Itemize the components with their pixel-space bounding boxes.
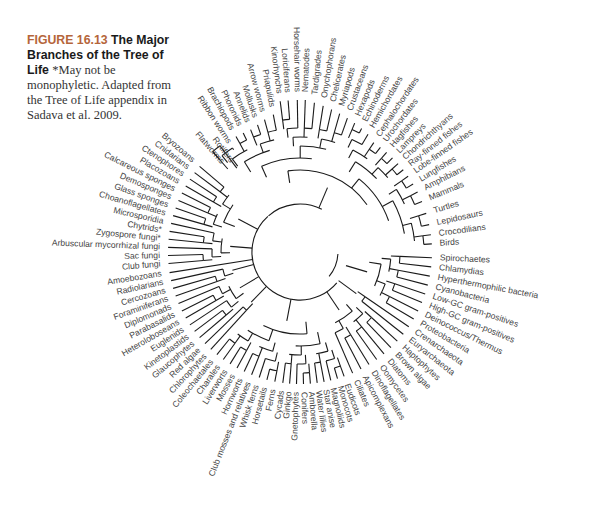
branch-arc bbox=[367, 318, 372, 323]
branch-line bbox=[230, 347, 241, 364]
branch-line bbox=[254, 137, 257, 145]
branch-line bbox=[235, 336, 240, 343]
branch-arc bbox=[253, 354, 259, 357]
branch-arc bbox=[213, 233, 214, 241]
branch-line bbox=[377, 281, 385, 284]
branch-line bbox=[243, 133, 246, 140]
branch-arc bbox=[396, 189, 404, 204]
branch-arc bbox=[326, 359, 335, 361]
branch-line bbox=[304, 100, 305, 128]
branch-line bbox=[275, 371, 277, 382]
branch-arc bbox=[397, 270, 399, 277]
branch-line bbox=[315, 363, 318, 383]
branch-line bbox=[230, 246, 252, 248]
branch-arc bbox=[204, 219, 206, 225]
branch-line bbox=[376, 147, 381, 153]
branch-line bbox=[403, 223, 412, 225]
branch-line bbox=[203, 260, 212, 261]
branch-line bbox=[238, 219, 257, 229]
branch-line bbox=[386, 303, 414, 319]
branch-line bbox=[265, 120, 268, 133]
branch-line bbox=[332, 350, 335, 359]
branch-arc bbox=[254, 134, 261, 137]
branch-line bbox=[327, 110, 332, 131]
branch-line bbox=[362, 301, 404, 334]
branch-arc bbox=[283, 119, 290, 120]
branch-line bbox=[351, 335, 369, 365]
branch-arc bbox=[268, 130, 276, 132]
branch-arc bbox=[220, 187, 224, 192]
branch-arc bbox=[213, 295, 216, 300]
branch-line bbox=[334, 368, 337, 379]
branch-line bbox=[310, 373, 311, 384]
branch-line bbox=[419, 213, 427, 215]
branch-arc bbox=[229, 286, 236, 298]
branch-line bbox=[258, 125, 261, 134]
branch-line bbox=[208, 213, 216, 217]
branch-line bbox=[349, 150, 353, 158]
branch-line bbox=[340, 366, 344, 376]
branch-line bbox=[402, 176, 409, 181]
branch-line bbox=[223, 343, 235, 359]
branch-line bbox=[337, 358, 340, 367]
branch-line bbox=[395, 284, 425, 294]
branch-line bbox=[356, 307, 363, 313]
branch-line bbox=[382, 258, 391, 259]
branch-arc bbox=[335, 311, 352, 323]
branch-arc bbox=[375, 264, 382, 286]
branch-line bbox=[341, 118, 347, 135]
branch-line bbox=[182, 193, 211, 207]
branch-arc bbox=[270, 369, 277, 371]
tree-labels: FlatwormsRotifersRibbon wormsBrachiopods… bbox=[52, 27, 540, 478]
branch-line bbox=[349, 130, 353, 138]
branch-line bbox=[309, 364, 310, 373]
branch-arc bbox=[243, 307, 246, 310]
branch-arc bbox=[369, 149, 375, 153]
branch-line bbox=[244, 162, 250, 172]
branch-arc bbox=[423, 236, 424, 245]
branch-arc bbox=[353, 150, 367, 159]
branch-line bbox=[372, 168, 378, 175]
branch-line bbox=[339, 321, 343, 329]
branch-arc bbox=[316, 351, 328, 354]
branch-line bbox=[287, 129, 288, 138]
branch-line bbox=[356, 320, 362, 327]
branch-line bbox=[406, 184, 413, 188]
branch-line bbox=[213, 224, 222, 227]
branch-line bbox=[273, 343, 275, 352]
branch-line bbox=[204, 224, 213, 227]
branch-line bbox=[190, 179, 217, 197]
branch-line bbox=[346, 266, 367, 272]
branch-line bbox=[399, 263, 431, 267]
branch-line bbox=[252, 356, 259, 375]
branch-arc bbox=[356, 327, 361, 331]
branch-arc bbox=[334, 133, 341, 135]
branch-line bbox=[237, 350, 247, 368]
branch-line bbox=[397, 277, 428, 285]
branch-arc bbox=[345, 335, 351, 338]
branch-line bbox=[352, 123, 355, 130]
branch-line bbox=[233, 148, 234, 150]
branch-arc bbox=[269, 204, 322, 216]
branch-line bbox=[240, 277, 259, 288]
branch-line bbox=[171, 223, 214, 233]
branch-line bbox=[220, 192, 227, 197]
branch-line bbox=[259, 359, 265, 378]
branch-line bbox=[200, 315, 227, 338]
branch-line bbox=[269, 329, 273, 340]
branch-line bbox=[397, 170, 403, 175]
branch-arc bbox=[289, 354, 301, 355]
branch-arc bbox=[223, 310, 227, 315]
branch-line bbox=[356, 331, 376, 360]
branch-line bbox=[244, 354, 253, 372]
branch-arc bbox=[296, 344, 320, 346]
branch-arc bbox=[335, 329, 343, 333]
branch-line bbox=[290, 364, 292, 384]
branch-line bbox=[260, 144, 263, 153]
branch-arc bbox=[381, 158, 387, 163]
branch-line bbox=[297, 364, 298, 384]
branch-line bbox=[348, 139, 352, 147]
branch-line bbox=[293, 137, 294, 146]
branch-line bbox=[375, 158, 381, 165]
branch-line bbox=[390, 269, 399, 271]
